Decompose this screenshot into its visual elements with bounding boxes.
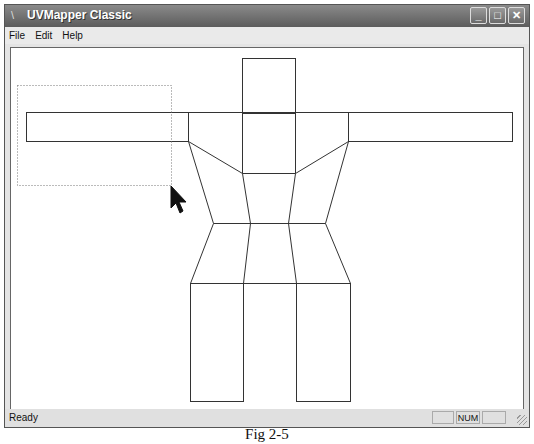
uvmapper-window: \ UVMapper Classic _ □ ✕ File Edit Help (4, 4, 530, 428)
status-panel-scroll (482, 411, 506, 424)
uv-map-drawing (2, 2, 534, 444)
head-uv[interactable] (243, 59, 296, 114)
right-arm-uv[interactable] (349, 113, 513, 142)
status-panel-num: NUM (456, 411, 480, 424)
left-leg-uv[interactable] (191, 284, 244, 402)
resize-grip-icon[interactable] (517, 415, 527, 425)
mouse-cursor-icon (171, 186, 186, 213)
status-bar: Ready NUM (5, 409, 529, 427)
left-arm-uv[interactable] (27, 113, 189, 142)
status-panel-caps (432, 411, 454, 424)
right-leg-uv[interactable] (297, 284, 351, 402)
selection-marquee (18, 86, 172, 186)
uv-canvas[interactable] (10, 47, 524, 410)
torso-uv[interactable] (189, 113, 351, 284)
figure-caption: Fig 2-5 (0, 426, 534, 443)
status-text: Ready (9, 409, 38, 427)
